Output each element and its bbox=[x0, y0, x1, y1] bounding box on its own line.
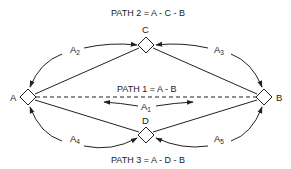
path2-label: PATH 2 = A - C - B bbox=[111, 8, 185, 18]
arc-a1-arrow-right bbox=[156, 102, 193, 106]
edge-d-b bbox=[153, 100, 257, 132]
node-a-diamond bbox=[20, 89, 36, 105]
node-b-label: B bbox=[276, 92, 282, 103]
node-d-diamond bbox=[138, 127, 154, 143]
edge-a-d bbox=[35, 100, 139, 132]
arc-a5-arrow bbox=[156, 138, 208, 147]
network-diagram: A B C D PATH 2 = A - C - B PATH 1 = A - … bbox=[0, 0, 291, 169]
arc-a4-arrow-d bbox=[84, 138, 137, 148]
arc-a4-arrow bbox=[30, 107, 62, 141]
path1-label: PATH 1 = A - B bbox=[117, 84, 176, 94]
arc-a2-arrow-c bbox=[84, 44, 137, 48]
node-c-label: C bbox=[142, 24, 149, 35]
node-a-label: A bbox=[10, 92, 17, 103]
arc-a2-arrow bbox=[30, 54, 62, 87]
arc-a5-label: A5 bbox=[214, 133, 224, 145]
node-c-diamond bbox=[138, 37, 154, 53]
arc-a3-arrow bbox=[156, 44, 208, 48]
node-d-label: D bbox=[142, 115, 149, 126]
arc-a1-label: A1 bbox=[141, 101, 151, 113]
path3-label: PATH 3 = A - D - B bbox=[111, 155, 185, 165]
arc-a1-arrow-left bbox=[104, 102, 138, 106]
arc-a3-label: A3 bbox=[214, 44, 224, 56]
arc-a3-arrow-b bbox=[231, 54, 262, 87]
arc-a5-arrow-b bbox=[231, 107, 262, 141]
arc-a2-label: A2 bbox=[70, 44, 80, 56]
arc-a4-label: A4 bbox=[70, 133, 80, 145]
node-b-diamond bbox=[256, 89, 272, 105]
